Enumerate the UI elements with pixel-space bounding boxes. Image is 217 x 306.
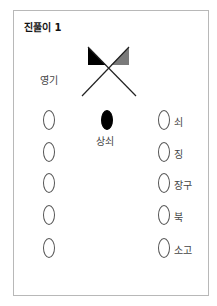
right-position-1 <box>158 110 170 130</box>
right-position-2 <box>158 142 170 162</box>
left-position-1 <box>43 110 55 130</box>
right-label-4: 북 <box>174 209 183 224</box>
flag-label: 영기 <box>40 72 58 87</box>
right-position-5 <box>158 238 170 258</box>
leader-label: 상쇠 <box>96 133 114 148</box>
left-position-2 <box>43 142 55 162</box>
leader-marker <box>101 110 113 130</box>
right-position-4 <box>158 205 170 225</box>
right-label-2: 징 <box>174 146 183 161</box>
left-position-3 <box>43 173 55 193</box>
right-label-1: 쇠 <box>174 114 183 129</box>
right-position-3 <box>158 173 170 193</box>
left-position-4 <box>43 205 55 225</box>
crossed-flags-icon <box>0 0 217 306</box>
left-position-5 <box>43 238 55 258</box>
right-label-3: 장구 <box>174 177 192 192</box>
right-label-5: 소고 <box>174 242 192 257</box>
